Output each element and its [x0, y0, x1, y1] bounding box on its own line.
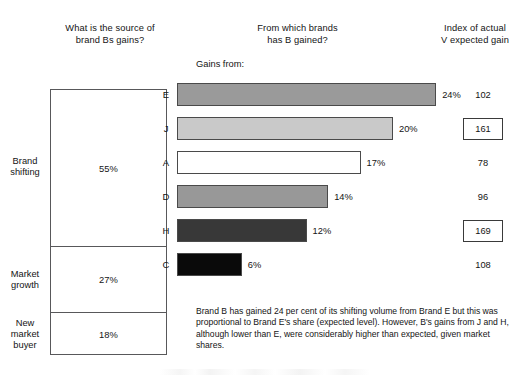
page-footer-artifact: [160, 369, 410, 375]
index-value-a: 78: [463, 151, 503, 175]
bar-category-label-d: D: [160, 185, 172, 209]
bar-value-label-c: 6%: [248, 253, 261, 277]
bar-row: H12%169: [0, 219, 532, 243]
bar-c: [177, 253, 242, 276]
bar-value-label-a: 17%: [367, 151, 386, 175]
bar-j: [177, 117, 393, 140]
bar-value-label-h: 12%: [313, 219, 332, 243]
bar-row: D14%96: [0, 185, 532, 209]
index-value-j: 161: [463, 118, 503, 140]
bar-row: E24%102: [0, 83, 532, 107]
bar-row: A17%78: [0, 151, 532, 175]
bar-row: J20%161: [0, 117, 532, 141]
index-value-h: 169: [463, 220, 503, 242]
bar-category-label-h: H: [160, 219, 172, 243]
bar-category-label-j: J: [160, 117, 172, 141]
chart-caption: Brand B has gained 24 per cent of its sh…: [196, 306, 519, 351]
index-panel-heading: Index of actual V expected gain: [420, 23, 530, 46]
stack-segment-new-market-buyer: 18%: [51, 313, 166, 355]
chart-page: What is the source of brand Bs gains? Fr…: [0, 0, 532, 380]
bar-panel-heading: From which brands has B gained?: [220, 23, 375, 46]
bar-d: [177, 185, 328, 208]
bar-category-label-a: A: [160, 151, 172, 175]
bar-value-label-j: 20%: [399, 117, 418, 141]
index-value-e: 102: [463, 83, 503, 107]
bar-category-label-e: E: [160, 83, 172, 107]
index-value-c: 108: [463, 253, 503, 277]
bar-value-label-d: 14%: [334, 185, 353, 209]
gains-from-label: Gains from:: [196, 59, 244, 69]
bar-a: [177, 151, 361, 174]
bar-e: [177, 83, 436, 106]
left-panel-heading: What is the source of brand Bs gains?: [10, 23, 210, 46]
bar-value-label-e: 24%: [442, 83, 461, 107]
bar-category-label-c: C: [160, 253, 172, 277]
bar-row: C6%108: [0, 253, 532, 277]
index-value-d: 96: [463, 185, 503, 209]
bar-h: [177, 219, 307, 242]
stack-segment-value: 18%: [99, 329, 118, 340]
stack-label-new-market-buyer: New market buyer: [2, 318, 48, 351]
